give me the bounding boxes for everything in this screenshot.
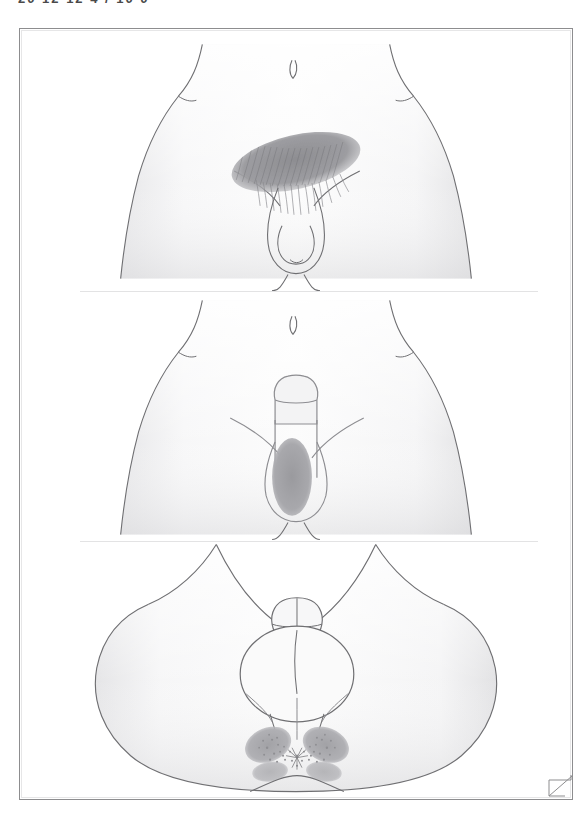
clipped-header-text: 20 12 12 4 / 10 0 (18, 0, 150, 6)
corner-fold-icon (548, 775, 574, 801)
illustration-panel-perineal-view (21, 542, 571, 799)
clipped-header-text-strip: 20 12 12 4 / 10 0 (0, 0, 588, 9)
figure-anterior-pubic-region (21, 30, 571, 291)
figure-anterior-shaft-shading (21, 292, 571, 541)
figure-perineal-lithotomy-view (21, 542, 571, 799)
page-corner-fold (548, 775, 574, 801)
shaft-shaded-region (272, 438, 312, 516)
scanned-page-frame (19, 28, 573, 800)
illustration-panel-anterior-pubic (21, 30, 571, 291)
illustration-panel-anterior-shaft (21, 292, 571, 541)
